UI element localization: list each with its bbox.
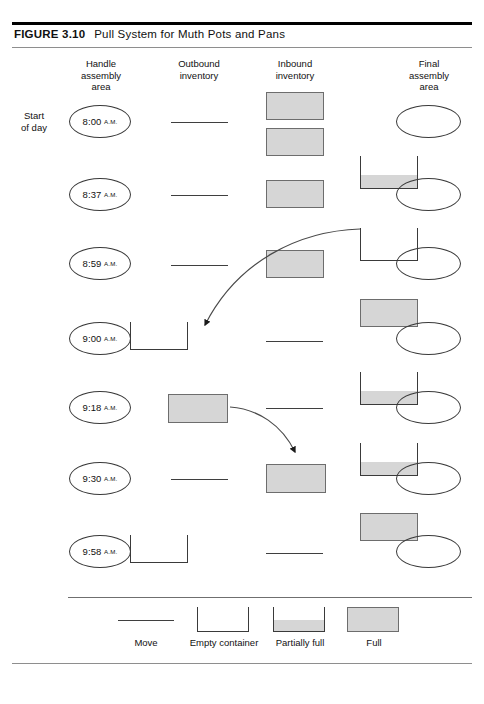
container-full-final-row-4 [360, 299, 418, 327]
final-assembly-node-row-4 [396, 322, 461, 355]
final-assembly-node-row-2 [396, 178, 461, 211]
time-ampm-row-5: A.M. [104, 404, 118, 411]
final-assembly-node-row-3 [396, 247, 461, 280]
time-ampm-row-6: A.M. [104, 475, 118, 482]
time-node-row-3: 8:59A.M. [69, 247, 131, 280]
column-header-inbound-inventory: Inbound inventory [256, 58, 334, 81]
title-rule-bottom [12, 47, 472, 48]
legend-glyph-move-icon [118, 620, 174, 621]
container-fill [274, 620, 324, 631]
time-value-row-3: 8:59 [83, 258, 102, 269]
move-line-outbound-row-1 [171, 122, 228, 123]
container-empty-handle-row-7 [130, 535, 188, 563]
figure-number: FIGURE 3.10 [14, 28, 85, 40]
time-value-row-4: 9:00 [83, 333, 102, 344]
time-ampm-row-7: A.M. [104, 548, 118, 555]
time-ampm-row-1: A.M. [104, 118, 118, 125]
time-value-row-2: 8:37 [83, 189, 102, 200]
column-header-final-assembly-area: Final assembly area [390, 58, 468, 93]
container-full-inbound-row-6 [266, 464, 326, 493]
move-line-inbound-row-4 [266, 341, 323, 342]
container-full-inbound-row-1a [266, 92, 324, 120]
container-full-outbound-row-5 [168, 394, 228, 423]
legend-glyph-empty-container-icon [197, 607, 249, 632]
time-node-row-6: 9:30A.M. [69, 462, 131, 495]
time-ampm-row-2: A.M. [104, 191, 118, 198]
legend-label-empty-container: Empty container [183, 637, 265, 648]
figure-container: FIGURE 3.10Pull System for Muth Pots and… [0, 0, 484, 704]
move-line-outbound-row-3 [171, 265, 228, 266]
move-line-outbound-row-6 [171, 479, 228, 480]
legend-label-full: Full [348, 637, 400, 648]
time-node-row-2: 8:37A.M. [69, 178, 131, 211]
time-ampm-row-3: A.M. [104, 260, 118, 267]
column-header-handle-assembly-area: Handle assembly area [62, 58, 140, 93]
container-empty-handle-row-4 [130, 322, 188, 350]
legend-rule-top [68, 597, 472, 598]
container-full-final-row-7 [360, 513, 418, 541]
container-full-inbound-row-3 [266, 250, 324, 278]
container-full-inbound-row-2 [266, 180, 324, 208]
legend-label-move: Move [112, 637, 180, 648]
move-line-outbound-row-2 [171, 195, 228, 196]
move-line-inbound-row-7 [266, 553, 323, 554]
time-value-row-5: 9:18 [83, 402, 102, 413]
final-assembly-node-row-1 [396, 105, 461, 138]
time-value-row-6: 9:30 [83, 473, 102, 484]
container-full-inbound-row-1b [266, 128, 324, 156]
time-ampm-row-4: A.M. [104, 335, 118, 342]
move-line-inbound-row-5 [266, 408, 323, 409]
legend-label-partially-full: Partially full [264, 637, 336, 648]
time-node-row-1: 8:00A.M. [69, 105, 131, 138]
figure-rule-bottom [12, 663, 472, 664]
column-header-outbound-inventory: Outbound inventory [160, 58, 238, 81]
legend-glyph-full-icon [347, 607, 399, 632]
figure-title: FIGURE 3.10Pull System for Muth Pots and… [14, 28, 285, 40]
time-node-row-4: 9:00A.M. [69, 322, 131, 355]
time-node-row-7: 9:58A.M. [69, 535, 131, 568]
time-node-row-5: 9:18A.M. [69, 391, 131, 424]
final-assembly-node-row-5 [396, 391, 461, 424]
figure-caption: Pull System for Muth Pots and Pans [94, 28, 285, 40]
title-rule-top [12, 22, 472, 25]
final-assembly-node-row-7 [396, 535, 461, 568]
time-value-row-7: 9:58 [83, 546, 102, 557]
row-label-start-of-day: Start of day [8, 110, 60, 133]
final-assembly-node-row-6 [396, 462, 461, 495]
arrow-outbound-to-inbound [230, 407, 295, 452]
time-value-row-1: 8:00 [83, 116, 102, 127]
legend-glyph-partially-full-icon [273, 607, 325, 632]
